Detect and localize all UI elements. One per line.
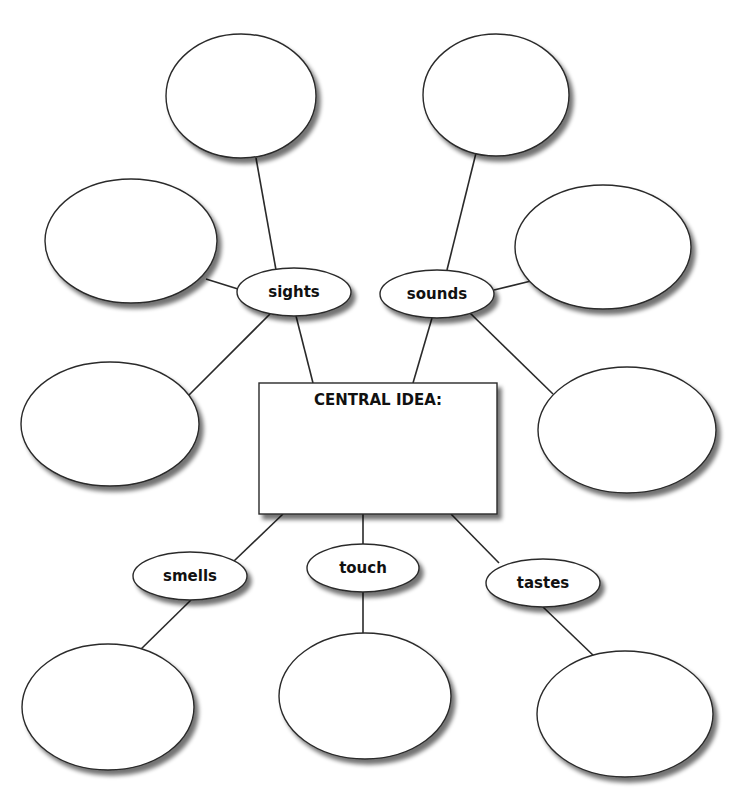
category-label-sounds: sounds <box>407 285 467 303</box>
connector-sights-central <box>296 316 313 383</box>
detail-bubble-sounds-top[interactable] <box>423 34 569 156</box>
connector-sights-sights-bottom <box>185 314 270 399</box>
detail-bubble-touch-bottom[interactable] <box>279 633 451 759</box>
connector-sights-sights-top <box>256 158 276 270</box>
detail-bubble-sounds-right[interactable] <box>515 185 691 309</box>
category-smells[interactable]: smells <box>133 552 247 600</box>
category-label-touch: touch <box>339 559 387 577</box>
connector-tastes-tastes-bottom <box>543 607 596 658</box>
connector-sights-sights-left <box>206 279 238 289</box>
connector-sounds-sounds-bottom <box>470 313 553 394</box>
category-label-smells: smells <box>163 567 217 585</box>
connector-sounds-central <box>413 318 432 383</box>
detail-bubble-sights-top[interactable] <box>166 34 316 158</box>
detail-bubble-tastes-bottom[interactable] <box>537 651 713 777</box>
category-sounds[interactable]: sounds <box>380 270 494 318</box>
sensory-web-diagram: CENTRAL IDEA: sightssoundssmellstouchtas… <box>0 0 741 807</box>
central-idea-box[interactable]: CENTRAL IDEA: <box>259 383 497 514</box>
detail-bubble-sights-left[interactable] <box>45 179 217 303</box>
connector-smells-smells-bottom <box>137 600 191 653</box>
connector-central-tastes <box>451 514 499 563</box>
category-tastes[interactable]: tastes <box>486 559 600 607</box>
detail-bubble-sights-bottom[interactable] <box>21 362 199 486</box>
connector-central-smells <box>234 514 283 561</box>
category-label-tastes: tastes <box>517 574 570 592</box>
connector-sounds-sounds-right <box>494 281 531 290</box>
detail-bubble-sounds-bottom[interactable] <box>538 367 716 493</box>
category-sights[interactable]: sights <box>237 268 351 316</box>
category-touch[interactable]: touch <box>307 544 419 592</box>
central-idea-title: CENTRAL IDEA: <box>314 391 442 409</box>
connector-sounds-sounds-top <box>447 153 476 270</box>
category-label-sights: sights <box>268 283 320 301</box>
detail-bubble-smells-bottom[interactable] <box>22 644 194 770</box>
